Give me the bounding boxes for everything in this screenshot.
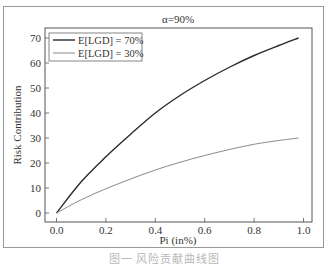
figure-caption: 图一 风险贡献曲线图 [0, 252, 329, 266]
x-tick-label: 0.2 [99, 224, 113, 236]
series-lines [57, 38, 299, 213]
y-tick-label: 10 [30, 182, 42, 194]
series-line-elgd-70 [57, 38, 299, 213]
x-tick-label: 0.0 [50, 224, 64, 236]
y-tick-label: 70 [30, 32, 42, 44]
x-tick-label: 1.0 [297, 224, 311, 236]
y-tick-label: 60 [30, 57, 42, 69]
x-tick-label: 0.4 [148, 224, 162, 236]
y-tick-label: 20 [30, 157, 42, 169]
x-tick-label: 0.8 [247, 224, 261, 236]
y-axis-label: Risk Contribution [11, 85, 23, 165]
series-line-elgd-30 [57, 138, 299, 213]
y-axis-ticks: 010203040506070 [30, 32, 49, 219]
legend: E[LGD] = 70% E[LGD] = 30% [49, 33, 144, 61]
y-tick-label: 30 [30, 132, 42, 144]
x-tick-label: 0.6 [198, 224, 212, 236]
y-tick-label: 0 [36, 207, 42, 219]
y-tick-label: 50 [30, 82, 42, 94]
chart-title: α=90% [162, 13, 194, 25]
x-axis-label: Pi (in%) [160, 234, 197, 247]
y-tick-label: 40 [30, 107, 42, 119]
legend-label-elgd-70: E[LGD] = 70% [78, 35, 144, 46]
legend-label-elgd-30: E[LGD] = 30% [78, 48, 144, 59]
